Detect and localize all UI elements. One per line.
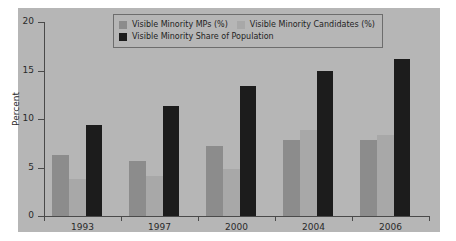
legend-label: Visible Minority Share of Population (132, 32, 274, 42)
x-tick-label: 2004 (284, 222, 344, 232)
x-tick-mark (429, 216, 430, 221)
legend-label: Visible Minority Candidates (%) (250, 20, 375, 30)
bar (129, 161, 146, 216)
bar (394, 59, 411, 216)
legend-entry: Visible Minority MPs (%) (119, 20, 228, 30)
legend-entry: Visible Minority Share of Population (119, 32, 274, 42)
x-tick-label: 1993 (53, 222, 113, 232)
bar (146, 176, 163, 216)
legend-swatch-mps (119, 21, 127, 29)
x-tick-mark (352, 216, 353, 221)
legend-label: Visible Minority MPs (%) (132, 20, 228, 30)
x-tick-mark (121, 216, 122, 221)
x-tick-mark (44, 216, 45, 221)
bar (223, 169, 240, 216)
bar (206, 146, 223, 216)
bar (69, 179, 86, 216)
y-tick-label: 0 (0, 211, 34, 220)
legend-row-top: Visible Minority MPs (%)Visible Minority… (119, 19, 376, 31)
x-tick-mark (198, 216, 199, 221)
x-axis-line (44, 216, 429, 217)
chart-legend: Visible Minority MPs (%)Visible Minority… (113, 14, 383, 48)
bar (86, 125, 103, 216)
legend-swatch-population (119, 33, 127, 41)
legend-entry: Visible Minority Candidates (%) (237, 20, 375, 30)
x-tick-label: 2006 (361, 222, 421, 232)
bar (240, 86, 257, 216)
x-tick-mark (275, 216, 276, 221)
bar (52, 155, 69, 216)
bar (300, 130, 317, 216)
bar (360, 140, 377, 216)
y-tick-label: 20 (0, 17, 34, 26)
bars-layer (44, 22, 429, 216)
chart-figure: 05101520 19931997200020042006 Percent Vi… (0, 0, 456, 241)
x-tick-label: 2000 (207, 222, 267, 232)
bar (163, 106, 180, 216)
legend-row-bottom: Visible Minority Share of Population (119, 31, 376, 43)
y-tick-label: 5 (0, 163, 34, 172)
bar (283, 140, 300, 216)
bar (317, 71, 334, 216)
y-axis-label: Percent (11, 79, 21, 139)
legend-swatch-candidates (237, 21, 245, 29)
x-tick-label: 1997 (130, 222, 190, 232)
bar (377, 135, 394, 216)
y-tick-label: 15 (0, 66, 34, 75)
